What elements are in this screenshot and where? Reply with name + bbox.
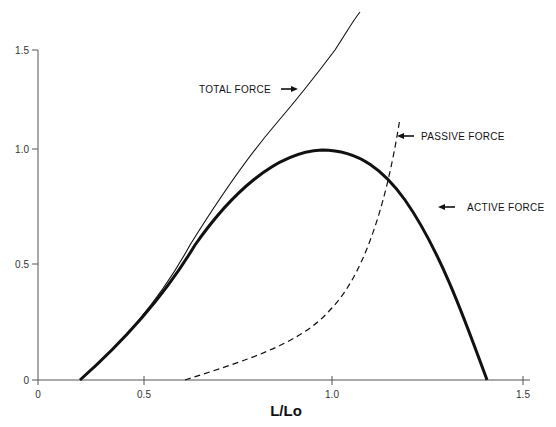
arrow-left-icon	[438, 204, 455, 210]
x-tick-0-5: 0.5	[137, 389, 151, 400]
total-force-label: TOTAL FORCE	[199, 84, 271, 95]
y-tick-0: 0	[23, 375, 29, 386]
active-force-label: ACTIVE FORCE	[467, 202, 545, 213]
x-tick-1-5: 1.5	[516, 389, 530, 400]
x-axis-title: L/Lo	[270, 402, 302, 419]
axes	[32, 50, 530, 385]
active-force-curve	[80, 150, 487, 380]
force-length-chart: 1.5 1.0 0.5 0 0 0.5 1.0 1.5 L/Lo TOTAL F…	[0, 0, 556, 427]
total-force-curve	[80, 12, 360, 380]
x-tick-0: 0	[35, 389, 41, 400]
x-tick-1-0: 1.0	[325, 389, 339, 400]
y-tick-1-5: 1.5	[15, 45, 29, 56]
passive-force-label: PASSIVE FORCE	[421, 131, 505, 142]
arrow-right-icon	[281, 86, 298, 92]
arrow-left-icon	[397, 133, 414, 139]
y-tick-1-0: 1.0	[15, 144, 29, 155]
y-tick-0-5: 0.5	[15, 259, 29, 270]
